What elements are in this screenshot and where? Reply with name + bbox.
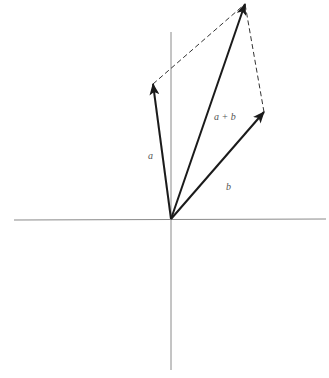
vector-b-label: b: [226, 182, 231, 192]
vector-a-arrow: [153, 84, 171, 219]
vector-b-arrow: [171, 112, 264, 219]
parallelogram-dashed-lines: [153, 4, 264, 112]
vector-a-label: a: [148, 151, 153, 161]
vector-a-plus-b-label: a + b: [214, 112, 236, 122]
horizontal-axis: [14, 219, 326, 220]
vector-addition-diagram: [0, 0, 329, 378]
dashed-line-1: [245, 4, 264, 112]
